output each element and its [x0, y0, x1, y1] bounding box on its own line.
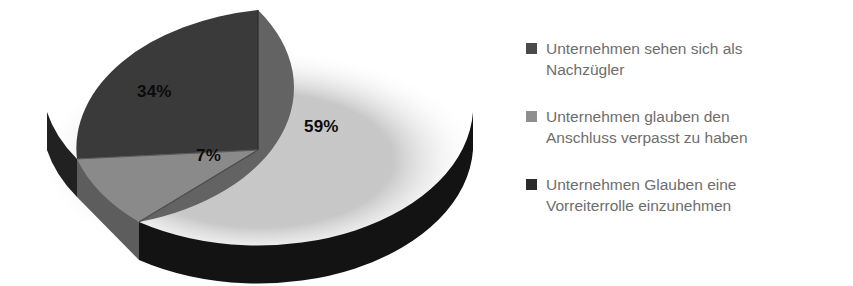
pie-data-label-59: 59%: [304, 117, 339, 137]
legend-item-label: Unternehmen sehen sich als Nachzügler: [546, 38, 742, 80]
legend-item-label: Unternehmen glauben den Anschluss verpas…: [546, 106, 748, 148]
chart-legend: Unternehmen sehen sich als Nachzügler Un…: [526, 38, 846, 242]
legend-line-1: Unternehmen glauben den: [546, 108, 730, 125]
legend-item-vorreiterrolle[interactable]: Unternehmen Glauben eine Vorreiterrolle …: [526, 174, 846, 216]
legend-line-1: Unternehmen Glauben eine: [546, 176, 736, 193]
pie-chart-figure: 34% 59% 7% Unternehmen sehen sich als Na…: [0, 0, 853, 286]
pie-svg: [0, 0, 500, 286]
legend-line-1: Unternehmen sehen sich als: [546, 40, 742, 57]
legend-item-label: Unternehmen Glauben eine Vorreiterrolle …: [546, 174, 736, 216]
legend-swatch-icon: [526, 179, 537, 190]
pie-chart-graphic: 34% 59% 7%: [0, 0, 500, 286]
pie-data-label-7: 7%: [196, 146, 221, 166]
legend-item-anschluss[interactable]: Unternehmen glauben den Anschluss verpas…: [526, 106, 846, 148]
legend-line-2: Vorreiterrolle einzunehmen: [546, 197, 731, 214]
legend-swatch-icon: [526, 43, 537, 54]
legend-swatch-icon: [526, 111, 537, 122]
legend-line-2: Anschluss verpasst zu haben: [546, 129, 748, 146]
legend-item-nachzuegler[interactable]: Unternehmen sehen sich als Nachzügler: [526, 38, 846, 80]
pie-data-label-34: 34%: [137, 82, 172, 102]
legend-line-2: Nachzügler: [546, 61, 624, 78]
